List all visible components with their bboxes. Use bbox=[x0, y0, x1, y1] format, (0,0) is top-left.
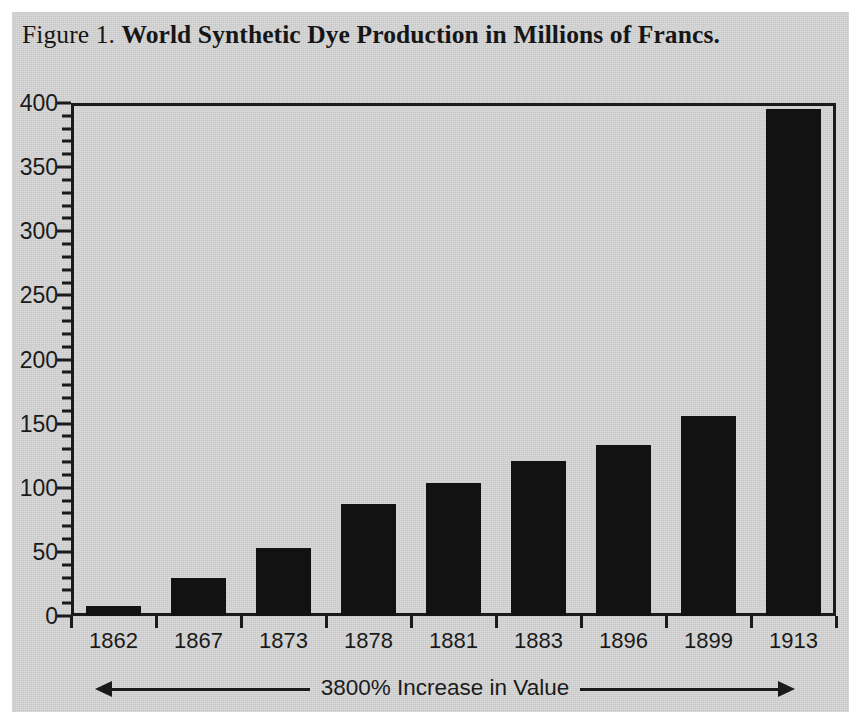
x-axis-tick-label-1899: 1899 bbox=[684, 628, 733, 654]
y-axis-tick-major bbox=[57, 294, 71, 297]
y-axis-tick-minor bbox=[62, 499, 71, 502]
x-axis-tick-label-1867: 1867 bbox=[174, 628, 223, 654]
bar-1873 bbox=[256, 548, 311, 616]
x-axis-tick bbox=[580, 616, 583, 628]
x-axis-tick bbox=[750, 616, 753, 628]
y-axis-tick-minor bbox=[62, 525, 71, 528]
arrow-left-icon bbox=[95, 681, 112, 697]
y-axis-tick-major bbox=[57, 486, 71, 489]
bar-1913 bbox=[766, 109, 821, 616]
y-axis-tick-major bbox=[57, 422, 71, 425]
y-axis-tick-minor bbox=[62, 563, 71, 566]
y-axis-tick-minor bbox=[62, 461, 71, 464]
bar-1878 bbox=[341, 504, 396, 616]
y-axis-tick-minor bbox=[62, 307, 71, 310]
x-axis-tick bbox=[325, 616, 328, 628]
y-axis-tick-major bbox=[57, 102, 71, 105]
y-axis-tick-minor bbox=[62, 268, 71, 271]
x-axis-tick bbox=[410, 616, 413, 628]
x-axis-tick-origin bbox=[70, 616, 73, 628]
y-axis-tick-minor bbox=[62, 409, 71, 412]
x-axis-tick bbox=[665, 616, 668, 628]
arrow-line-left bbox=[112, 688, 310, 691]
y-axis-tick-minor bbox=[62, 217, 71, 220]
y-axis-tick-major bbox=[57, 358, 71, 361]
y-axis-tick-minor bbox=[62, 191, 71, 194]
x-axis-tick-label-1881: 1881 bbox=[429, 628, 478, 654]
bar-1862 bbox=[86, 606, 141, 616]
y-axis-tick-minor bbox=[62, 281, 71, 284]
y-axis-tick-minor bbox=[62, 448, 71, 451]
y-axis-tick-minor bbox=[62, 538, 71, 541]
x-axis-tick-label-1862: 1862 bbox=[89, 628, 138, 654]
x-axis-tick-label-1878: 1878 bbox=[344, 628, 393, 654]
x-axis-tick bbox=[240, 616, 243, 628]
y-axis-tick-minor bbox=[62, 127, 71, 130]
figure-caption: Figure 1. World Synthetic Dye Production… bbox=[22, 20, 720, 50]
x-axis-tick bbox=[495, 616, 498, 628]
bar-1881 bbox=[426, 483, 481, 616]
y-axis-tick-minor bbox=[62, 178, 71, 181]
y-axis-tick-minor bbox=[62, 602, 71, 605]
y-axis-tick-minor bbox=[62, 255, 71, 258]
x-axis-tick-label-1873: 1873 bbox=[259, 628, 308, 654]
x-axis-tick-label-1896: 1896 bbox=[599, 628, 648, 654]
x-axis-tick bbox=[835, 616, 838, 628]
y-axis-tick-minor bbox=[62, 243, 71, 246]
x-axis-tick-label-1913: 1913 bbox=[769, 628, 818, 654]
y-axis-tick-minor bbox=[62, 396, 71, 399]
figure-page: Figure 1. World Synthetic Dye Production… bbox=[0, 0, 861, 719]
bar-1867 bbox=[171, 578, 226, 616]
arrow-right-icon bbox=[778, 681, 795, 697]
x-axis-tick-label-1883: 1883 bbox=[514, 628, 563, 654]
y-axis-tick-minor bbox=[62, 384, 71, 387]
y-axis-tick-major bbox=[57, 230, 71, 233]
y-axis-tick-minor bbox=[62, 320, 71, 323]
y-axis-tick-major bbox=[57, 166, 71, 169]
bar-1899 bbox=[681, 416, 736, 616]
x-axis-tick bbox=[155, 616, 158, 628]
increase-annotation: 3800% Increase in Value bbox=[95, 672, 795, 706]
bar-1883 bbox=[511, 461, 566, 616]
chart-plot-area bbox=[71, 103, 836, 616]
figure-number: Figure 1. bbox=[22, 20, 115, 49]
y-axis-tick-minor bbox=[62, 332, 71, 335]
y-axis-tick-major bbox=[57, 550, 71, 553]
y-axis-tick-minor bbox=[62, 204, 71, 207]
y-axis-tick-minor bbox=[62, 473, 71, 476]
page-title: World Synthetic Dye Production in Millio… bbox=[121, 20, 719, 49]
y-axis-tick-minor bbox=[62, 140, 71, 143]
y-axis-tick-minor bbox=[62, 512, 71, 515]
y-axis-tick-minor bbox=[62, 114, 71, 117]
y-axis-tick-minor bbox=[62, 589, 71, 592]
bar-1896 bbox=[596, 445, 651, 616]
arrow-line-right bbox=[580, 688, 778, 691]
y-axis-tick-minor bbox=[62, 576, 71, 579]
y-axis-tick-minor bbox=[62, 153, 71, 156]
y-axis-tick-minor bbox=[62, 435, 71, 438]
y-axis-tick-minor bbox=[62, 345, 71, 348]
annotation-label: 3800% Increase in Value bbox=[310, 677, 581, 700]
y-axis-tick-minor bbox=[62, 371, 71, 374]
